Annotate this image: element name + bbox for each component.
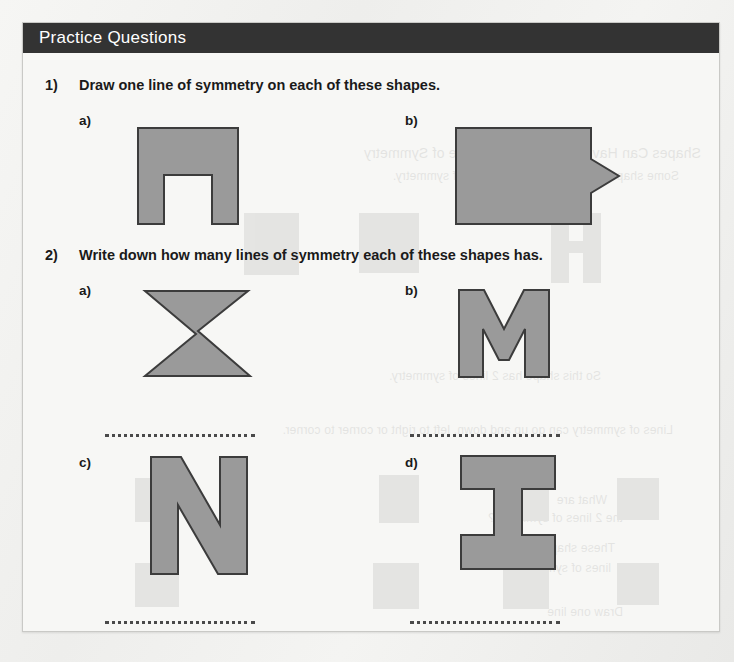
bleed-through-shape [617, 478, 659, 520]
answer-line-2d[interactable] [410, 617, 560, 624]
worksheet-page: Shapes Can Have More Than One Line of Sy… [22, 22, 720, 632]
bleed-through-shape [551, 241, 601, 253]
bleed-through-shape [617, 563, 659, 605]
shape-letter-n [138, 453, 258, 578]
question-1-part-a-label: a) [79, 113, 91, 128]
question-2-part-b-label: b) [405, 283, 418, 298]
question-1-number: 1) [45, 77, 58, 93]
shape-letter-m [451, 286, 557, 381]
question-1-text: Draw one line of symmetry on each of the… [79, 77, 440, 93]
answer-line-2b[interactable] [410, 430, 560, 437]
question-2-text: Write down how many lines of symmetry ea… [79, 247, 543, 263]
shape-letter-i-beam [445, 451, 570, 576]
section-header-bar: Practice Questions [23, 23, 720, 53]
question-2-part-a-label: a) [79, 283, 91, 298]
bleed-through-shape [373, 563, 419, 609]
question-1-part-b-label: b) [405, 113, 418, 128]
shape-arrow-tab-pentagon [451, 123, 621, 229]
page-bleed-through: Shapes Can Have More Than One Line of Sy… [23, 23, 719, 631]
answer-line-2c[interactable] [105, 617, 255, 624]
shape-bowtie-hourglass [138, 286, 258, 381]
question-2-part-c-label: c) [79, 455, 91, 470]
section-header-title: Practice Questions [39, 28, 186, 48]
question-2-part-d-label: d) [405, 455, 418, 470]
bleed-through-shape [359, 213, 419, 273]
bleed-through-shape [379, 475, 419, 523]
question-2-number: 2) [45, 247, 58, 263]
answer-line-2a[interactable] [105, 430, 255, 437]
shape-arch [133, 123, 243, 229]
bleed-through-shape [244, 213, 299, 275]
